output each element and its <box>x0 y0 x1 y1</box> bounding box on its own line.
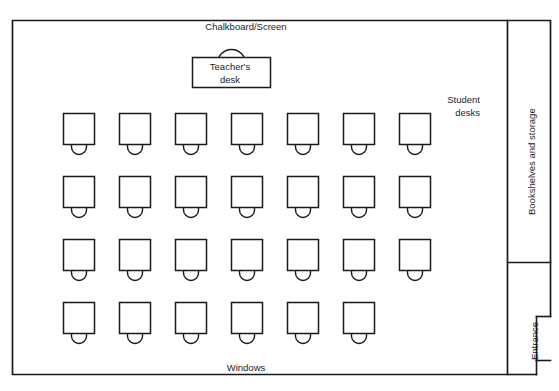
entrance-label: Entrance <box>529 322 540 360</box>
student-desk-rect <box>64 240 95 271</box>
student-desk-rect <box>120 240 151 271</box>
student-desk-unit <box>400 177 431 218</box>
student-desk-unit <box>288 303 319 344</box>
student-desk-unit <box>176 114 207 155</box>
floorplan-svg <box>0 0 559 391</box>
student-desk-rect <box>176 303 207 334</box>
student-desk-rect <box>232 177 263 208</box>
student-desk-unit <box>344 303 375 344</box>
student-desk-unit <box>400 240 431 281</box>
student-desk-unit <box>288 177 319 218</box>
student-desk-rect <box>232 303 263 334</box>
student-desk-unit <box>64 114 95 155</box>
student-desk-unit <box>120 240 151 281</box>
student-desk-unit <box>64 303 95 344</box>
student-desk-unit <box>288 114 319 155</box>
student-desk-unit <box>232 177 263 218</box>
student-desks-label: Student desks <box>396 93 480 119</box>
student-desk-rect <box>344 303 375 334</box>
student-desk-rect <box>344 114 375 145</box>
student-desk-rect <box>64 177 95 208</box>
student-desk-rect <box>176 114 207 145</box>
teacher-desk-label-line2: desk <box>190 73 270 86</box>
student-desk-unit <box>120 114 151 155</box>
student-desk-rect <box>400 177 431 208</box>
student-desk-rect <box>64 114 95 145</box>
student-desk-unit <box>344 240 375 281</box>
student-desk-unit <box>232 303 263 344</box>
student-desk-rect <box>64 303 95 334</box>
student-desk-rect <box>344 177 375 208</box>
student-desk-unit <box>176 177 207 218</box>
student-desk-rect <box>120 114 151 145</box>
chalkboard-label: Chalkboard/Screen <box>0 21 492 34</box>
student-desk-unit <box>120 177 151 218</box>
student-desk-unit <box>344 114 375 155</box>
student-desks-label-line2: desks <box>396 106 480 119</box>
student-desk-unit <box>344 177 375 218</box>
teacher-desk-label-line1: Teacher's <box>190 60 270 73</box>
student-desk-rect <box>400 240 431 271</box>
student-desk-rect <box>344 240 375 271</box>
student-desk-rect <box>232 114 263 145</box>
student-desk-unit <box>400 114 431 155</box>
student-desk-unit <box>232 240 263 281</box>
student-desk-rect <box>288 114 319 145</box>
student-desk-rect <box>120 177 151 208</box>
student-desk-unit <box>288 240 319 281</box>
student-desk-unit <box>64 177 95 218</box>
windows-label: Windows <box>0 362 492 375</box>
teacher-desk-label: Teacher's desk <box>190 60 270 86</box>
student-desk-rect <box>176 177 207 208</box>
classroom-layout-diagram: Chalkboard/Screen Windows Teacher's desk… <box>0 0 559 391</box>
student-desk-rect <box>176 240 207 271</box>
student-desks-label-line1: Student <box>396 93 480 106</box>
student-desk-unit <box>64 240 95 281</box>
student-desk-rect <box>288 177 319 208</box>
student-desk-unit <box>176 240 207 281</box>
student-desk-unit <box>232 114 263 155</box>
student-desk-unit <box>120 303 151 344</box>
student-desk-rect <box>120 303 151 334</box>
student-desk-unit <box>176 303 207 344</box>
student-desk-rect <box>232 240 263 271</box>
student-desk-rect <box>288 303 319 334</box>
bookshelves-label: Bookshelves and storage <box>526 108 537 215</box>
student-desk-grid <box>64 114 431 344</box>
student-desk-rect <box>288 240 319 271</box>
